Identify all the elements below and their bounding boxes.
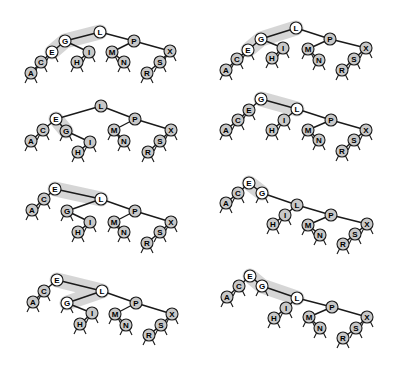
node-label: G (259, 189, 265, 198)
node-label: L (99, 102, 104, 111)
node-label: L (295, 105, 300, 114)
tree-node-I: I (280, 302, 292, 314)
tree-node-I: I (86, 307, 98, 319)
node-label: C (234, 55, 240, 64)
node-label: S (158, 321, 164, 330)
node-label: P (133, 299, 139, 308)
node-label: G (64, 207, 70, 216)
node-label: X (363, 44, 369, 53)
tree-node-R: R (143, 329, 155, 341)
edge-L-E (56, 106, 101, 119)
tree-node-H: H (72, 146, 84, 158)
node-label: A (30, 298, 36, 307)
tree-node-P: P (128, 35, 140, 47)
tree-node-S: S (348, 53, 360, 65)
node-label: I (89, 138, 91, 147)
panel-8: ECAGLIHPMNXSR (221, 270, 373, 348)
node-label: M (111, 218, 118, 227)
panels: LGECAIHPMNXSRLGECAIHPMNXSRLECAGIHPMNXSRG… (25, 22, 373, 348)
node-label: R (146, 331, 152, 340)
tree-node-E: E (46, 46, 58, 58)
node-label: H (74, 58, 80, 67)
tree-node-L: L (291, 292, 303, 304)
tree-node-A: A (220, 124, 232, 136)
node-label: P (131, 37, 137, 46)
tree-node-I: I (83, 46, 95, 58)
node-label: N (316, 56, 322, 65)
node-label: H (269, 54, 275, 63)
tree-node-N: N (118, 226, 130, 238)
tree-node-H: H (72, 226, 84, 238)
node-label: X (363, 126, 369, 135)
node-label: A (223, 66, 229, 75)
tree-node-N: N (118, 135, 130, 147)
node-label: I (282, 44, 284, 53)
node-label: H (75, 228, 81, 237)
tree-node-G: G (61, 205, 73, 217)
node-label: X (168, 218, 174, 227)
tree-node-G: G (255, 93, 267, 105)
tree-node-E: E (243, 104, 255, 116)
tree-node-S: S (350, 322, 362, 334)
tree-node-H: H (74, 318, 86, 330)
tree-node-A: A (26, 204, 38, 216)
tree-rotation-diagram: LGECAIHPMNXSRLGECAIHPMNXSRLECAGIHPMNXSRG… (0, 0, 393, 372)
tree-node-M: M (106, 46, 118, 58)
node-label: X (364, 313, 370, 322)
tree-node-A: A (221, 291, 233, 303)
node-label: I (285, 304, 287, 313)
node-label: A (28, 137, 34, 146)
tree-node-H: H (268, 312, 280, 324)
tree-node-P: P (130, 297, 142, 309)
node-label: A (223, 199, 229, 208)
tree-node-E: E (50, 113, 62, 125)
tree-node-P: P (129, 113, 141, 125)
tree-node-S: S (348, 134, 360, 146)
node-label: I (284, 211, 286, 220)
tree-node-X: X (360, 124, 372, 136)
node-label: L (294, 24, 299, 33)
tree-node-L: L (95, 193, 107, 205)
node-label: E (49, 48, 55, 57)
panel-4: GECALIHPMNXSR (220, 93, 372, 161)
node-label: G (64, 299, 70, 308)
node-label: X (364, 220, 370, 229)
panel-2: LGECAIHPMNXSR (220, 22, 372, 80)
tree-node-I: I (84, 136, 96, 148)
tree-node-X: X (165, 216, 177, 228)
tree-node-H: H (267, 218, 279, 230)
tree-node-S: S (154, 56, 166, 68)
tree-node-L: L (291, 103, 303, 115)
tree-node-X: X (361, 311, 373, 323)
node-label: S (351, 136, 357, 145)
tree-node-L: L (95, 100, 107, 112)
node-label: A (28, 69, 34, 78)
tree-node-E: E (244, 270, 256, 282)
tree-node-M: M (302, 43, 314, 55)
tree-node-C: C (232, 114, 244, 126)
tree-node-G: G (256, 280, 268, 292)
tree-node-G: G (59, 35, 71, 47)
tree-node-S: S (155, 319, 167, 331)
tree-node-A: A (220, 64, 232, 76)
tree-node-C: C (38, 193, 50, 205)
node-label: G (258, 95, 264, 104)
node-label: E (54, 276, 60, 285)
node-label: M (306, 313, 313, 322)
tree-node-C: C (35, 56, 47, 68)
tree-node-G: G (60, 125, 72, 137)
tree-node-N: N (314, 229, 326, 241)
panel-7: ECALGIHPMNXSR (27, 274, 178, 345)
tree-node-P: P (129, 205, 141, 217)
tree-node-L: L (291, 199, 303, 211)
node-label: G (258, 35, 264, 44)
tree-node-E: E (51, 274, 63, 286)
node-label: M (111, 126, 118, 135)
node-label: R (145, 148, 151, 157)
node-label: R (339, 147, 345, 156)
tree-node-R: R (336, 64, 348, 76)
node-label: C (41, 195, 47, 204)
tree-node-A: A (25, 135, 37, 147)
node-label: G (63, 127, 69, 136)
node-label: C (38, 58, 44, 67)
